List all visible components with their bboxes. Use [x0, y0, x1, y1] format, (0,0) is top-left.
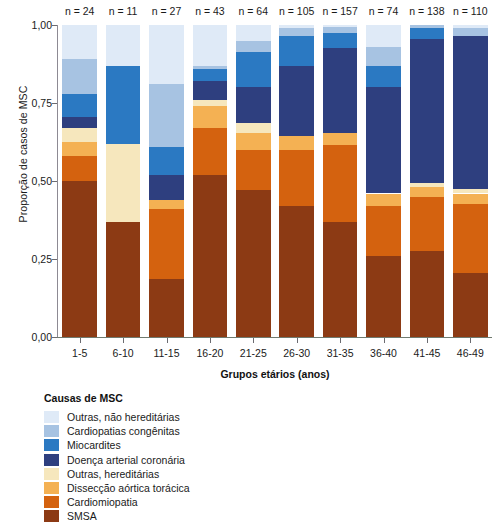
bar-segment[interactable] — [149, 25, 184, 84]
bar-count-label: n = 27 — [152, 5, 182, 17]
bar-segment[interactable] — [410, 25, 445, 28]
bar-segment[interactable] — [236, 52, 271, 88]
bar-segment[interactable] — [62, 117, 97, 128]
bar-segment[interactable] — [453, 36, 488, 189]
bar-segment[interactable] — [149, 279, 184, 337]
legend-item[interactable]: Miocardites — [44, 438, 464, 452]
bar-1-5[interactable]: n = 24 — [62, 25, 97, 337]
bar-segment[interactable] — [193, 106, 228, 128]
bar-segment[interactable] — [410, 183, 445, 188]
bar-segment[interactable] — [323, 48, 358, 132]
bar-segment[interactable] — [236, 150, 271, 191]
bar-segment[interactable] — [279, 136, 314, 150]
bar-segment[interactable] — [453, 189, 488, 194]
legend-item[interactable]: Dissecção aórtica torácica — [44, 481, 464, 495]
bar-segment[interactable] — [453, 194, 488, 205]
legend-swatch — [44, 454, 59, 466]
bar-segment[interactable] — [453, 204, 488, 273]
bar-6-10[interactable]: n = 11 — [106, 25, 141, 337]
bar-segment[interactable] — [453, 28, 488, 36]
bar-segment[interactable] — [366, 194, 401, 206]
bar-segment[interactable] — [453, 273, 488, 337]
bar-segment[interactable] — [193, 100, 228, 106]
bar-segment[interactable] — [193, 25, 228, 66]
bar-segment[interactable] — [193, 69, 228, 81]
bar-segment[interactable] — [193, 81, 228, 100]
legend-item[interactable]: Cardiomiopatia — [44, 495, 464, 509]
bar-segment[interactable] — [106, 222, 141, 337]
bar-segment[interactable] — [323, 145, 358, 221]
bar-16-20[interactable]: n = 43 — [193, 25, 228, 337]
bar-segment[interactable] — [279, 206, 314, 337]
bar-segment[interactable] — [323, 33, 358, 49]
bar-segment[interactable] — [193, 66, 228, 69]
bar-segment[interactable] — [149, 175, 184, 200]
bar-segment[interactable] — [366, 87, 401, 193]
bar-36-40[interactable]: n = 74 — [366, 25, 401, 337]
bar-segment[interactable] — [410, 251, 445, 337]
bar-count-label: n = 24 — [65, 5, 95, 17]
bar-21-25[interactable]: n = 64 — [236, 25, 271, 337]
x-tick-mark — [210, 338, 211, 343]
bar-segment[interactable] — [149, 147, 184, 175]
bar-segment[interactable] — [366, 25, 401, 47]
bar-segment[interactable] — [236, 190, 271, 337]
x-tick-mark — [253, 338, 254, 343]
bar-segment[interactable] — [410, 197, 445, 252]
bar-segment[interactable] — [279, 25, 314, 28]
bar-26-30[interactable]: n = 105 — [279, 25, 314, 337]
bar-segment[interactable] — [323, 25, 358, 27]
bar-segment[interactable] — [62, 59, 97, 93]
bar-segment[interactable] — [323, 27, 358, 33]
bar-segment[interactable] — [453, 25, 488, 28]
bar-46-49[interactable]: n = 110 — [453, 25, 488, 337]
bar-segment[interactable] — [62, 142, 97, 156]
bar-segment[interactable] — [366, 256, 401, 337]
figure-stacked-bar-chart: Proporção de casos de MSC 0,000,250,500,… — [0, 0, 495, 527]
bar-segment[interactable] — [410, 39, 445, 183]
bar-segment[interactable] — [149, 200, 184, 209]
bar-segment[interactable] — [62, 181, 97, 337]
bar-segment[interactable] — [410, 28, 445, 39]
bar-segment[interactable] — [279, 36, 314, 66]
bar-segment[interactable] — [236, 133, 271, 150]
bar-segment[interactable] — [366, 47, 401, 66]
x-tick-label: 36-40 — [370, 347, 397, 359]
legend-item[interactable]: Outras, hereditárias — [44, 467, 464, 481]
bar-segment[interactable] — [193, 128, 228, 175]
bar-segment[interactable] — [193, 175, 228, 337]
x-tick-label: 6-10 — [113, 347, 134, 359]
bar-segment[interactable] — [62, 25, 97, 59]
legend-item[interactable]: SMSA — [44, 509, 464, 523]
bar-segment[interactable] — [279, 150, 314, 206]
bar-segment[interactable] — [149, 84, 184, 146]
bar-segment[interactable] — [149, 209, 184, 279]
bar-segment[interactable] — [236, 25, 271, 41]
bar-segment[interactable] — [106, 25, 141, 66]
bar-segment[interactable] — [106, 66, 141, 144]
bar-segment[interactable] — [323, 133, 358, 145]
legend-item[interactable]: Outras, não hereditárias — [44, 410, 464, 424]
legend-item[interactable]: Cardiopatias congênitas — [44, 424, 464, 438]
bar-segment[interactable] — [366, 206, 401, 256]
bar-41-45[interactable]: n = 138 — [410, 25, 445, 337]
x-tick-mark — [384, 338, 385, 343]
bar-segment[interactable] — [236, 41, 271, 52]
bar-segment[interactable] — [366, 66, 401, 88]
legend-label: Doença arterial coronária — [67, 454, 185, 466]
bar-segment[interactable] — [236, 123, 271, 132]
bar-segment[interactable] — [236, 87, 271, 123]
bar-segment[interactable] — [279, 28, 314, 36]
legend-item[interactable]: Doença arterial coronária — [44, 453, 464, 467]
bar-11-15[interactable]: n = 27 — [149, 25, 184, 337]
bar-segment[interactable] — [62, 156, 97, 181]
bar-segment[interactable] — [410, 187, 445, 196]
bar-segment[interactable] — [323, 222, 358, 337]
legend-title: Causas de MSC — [44, 392, 464, 404]
x-tick-label: 21-25 — [240, 347, 267, 359]
bar-segment[interactable] — [106, 144, 141, 222]
bar-31-35[interactable]: n = 157 — [323, 25, 358, 337]
bar-segment[interactable] — [279, 66, 314, 136]
bar-segment[interactable] — [62, 128, 97, 142]
bar-segment[interactable] — [62, 94, 97, 117]
